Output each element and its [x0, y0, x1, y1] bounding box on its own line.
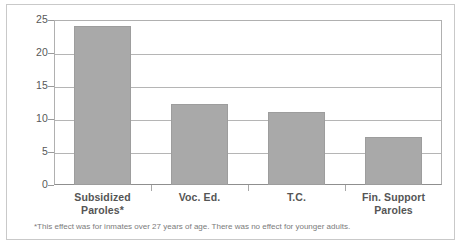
y-axis-tick-mark — [48, 20, 54, 21]
x-axis-category-label-line: Voc. Ed. — [151, 191, 248, 204]
x-axis-category-label-line: Paroles* — [54, 204, 151, 217]
y-axis-tick-label: 20 — [22, 47, 48, 57]
x-axis-category-label: SubsidizedParoles* — [54, 191, 151, 216]
y-axis-tick-mark — [48, 86, 54, 87]
bar — [74, 26, 131, 185]
y-axis-tick-label: 5 — [22, 146, 48, 156]
chart-footnote: *This effect was for inmates over 27 yea… — [34, 222, 434, 232]
category-separator-tick — [151, 185, 152, 191]
x-axis-category-label: T.C. — [248, 191, 345, 204]
bar — [171, 104, 228, 185]
y-axis-tick-label: 0 — [22, 179, 48, 189]
bar — [268, 112, 325, 185]
x-axis-category-label: Fin. SupportParoles — [345, 191, 442, 216]
x-axis-category-label-line: Subsidized — [54, 191, 151, 204]
x-axis-category-label-line: T.C. — [248, 191, 345, 204]
bar — [365, 137, 422, 185]
chart-figure: 0510152025 SubsidizedParoles*Voc. Ed.T.C… — [0, 0, 467, 252]
y-axis-tick-mark — [48, 53, 54, 54]
category-separator-tick — [248, 185, 249, 191]
x-axis-category-labels: SubsidizedParoles*Voc. Ed.T.C.Fin. Suppo… — [54, 191, 442, 223]
x-axis-category-label: Voc. Ed. — [151, 191, 248, 204]
y-axis-tick-mark — [48, 152, 54, 153]
y-axis-tick-labels: 0510152025 — [22, 20, 48, 185]
y-axis-tick-label: 10 — [22, 113, 48, 123]
x-axis-category-label-line: Fin. Support — [345, 191, 442, 204]
y-axis-tick-mark — [48, 185, 54, 186]
y-axis-tick-label: 15 — [22, 80, 48, 90]
y-axis-tick-mark — [48, 119, 54, 120]
bar-series — [54, 20, 442, 185]
category-separator-tick — [345, 185, 346, 191]
x-axis-category-label-line: Paroles — [345, 204, 442, 217]
y-axis-tick-label: 25 — [22, 14, 48, 24]
